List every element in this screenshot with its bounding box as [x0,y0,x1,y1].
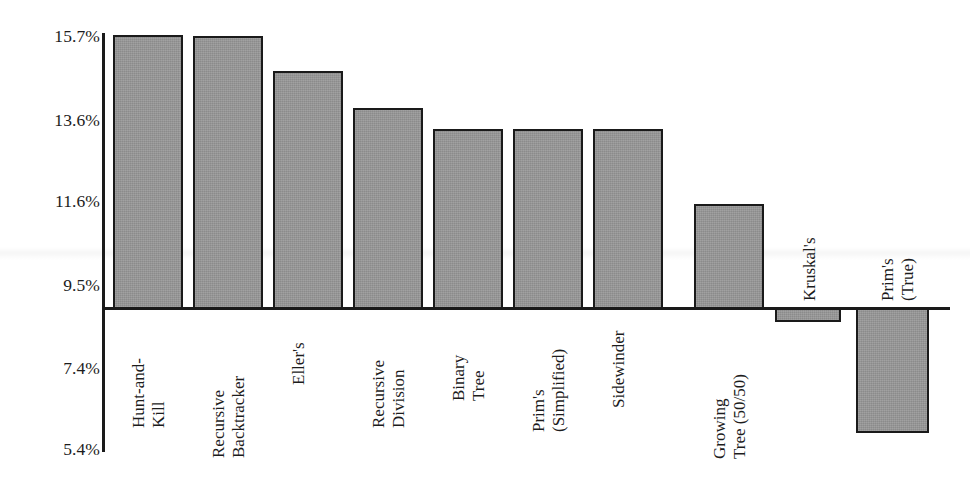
bar[interactable] [353,108,423,309]
bar[interactable] [513,129,583,309]
x-axis-category-label-line1: Recursive [369,360,388,428]
bar-chart: 15.7% 13.6% 11.6% 9.5% 7.4% 5.4% Hunt-an… [0,0,970,486]
x-axis-category-label-line2: Tree [469,355,489,401]
x-axis-category-label-line2: Tree (50/50) [730,374,750,459]
bar[interactable] [113,35,183,309]
plot-area: Hunt-and-Kill RecursiveBacktracker Eller… [0,0,970,486]
x-axis-category-label: BinaryTree [449,355,488,401]
x-axis-category-label-line2: Backtracker [229,376,249,458]
x-axis-category-label-line1: Sidewinder [609,331,628,408]
x-axis-category-label-line2: Division [389,360,409,428]
x-axis-category-label-line2: (True) [898,258,918,301]
x-axis-category-label-line1: Hunt-and- [129,358,148,428]
x-axis-category-label-line1: Prim's [878,258,897,301]
x-axis-category-label: Sidewinder [609,331,629,408]
x-axis-category-label-line1: Eller's [289,342,308,385]
bar[interactable] [593,129,663,309]
x-axis-category-label: Eller's [289,342,309,385]
x-axis-category-label-line2: (Simplified) [549,349,569,432]
x-axis-category-label-line1: Kruskal's [800,237,819,301]
x-axis-category-label: Prim's(Simplified) [529,349,568,432]
bar[interactable] [694,204,764,309]
x-axis-category-label-line2: Kill [149,358,169,428]
x-axis-category-label-line1: Growing [710,399,729,459]
bar[interactable] [775,308,841,322]
x-axis-category-label: GrowingTree (50/50) [710,374,749,459]
x-axis-category-label: Kruskal's [800,237,820,301]
x-axis-category-label-line1: Binary [449,355,468,401]
bar[interactable] [856,308,929,433]
bar[interactable] [433,129,503,309]
x-axis-category-label: RecursiveDivision [369,360,408,428]
x-axis-category-label: RecursiveBacktracker [209,376,248,458]
bar[interactable] [273,71,343,309]
x-axis-category-label: Prim's(True) [878,258,917,301]
x-axis-category-label: Hunt-and-Kill [129,358,168,428]
x-axis-category-label-line1: Recursive [209,390,228,458]
x-axis-category-label-line1: Prim's [529,389,548,432]
bar[interactable] [193,36,263,309]
